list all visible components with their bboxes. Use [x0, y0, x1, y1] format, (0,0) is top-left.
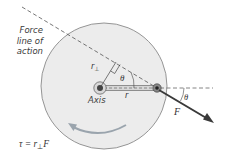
r-perp-subscript: ⊥: [94, 65, 99, 72]
theta-outer-label: θ: [184, 93, 188, 102]
axis-label: Axis: [88, 96, 106, 105]
r-perp-label: r⊥: [91, 63, 100, 72]
lever-rod: [100, 86, 157, 91]
caption-line-3: action: [6, 46, 43, 57]
caption-line-2: line of: [6, 36, 43, 47]
formula-lhs: τ = r: [19, 139, 37, 149]
force-label: F: [174, 107, 180, 117]
caption-line-1: Force: [6, 25, 43, 36]
force-arrow-head: [203, 113, 214, 123]
torque-formula: τ = r⊥F: [19, 140, 49, 151]
force-line-caption: Force line of action: [6, 25, 43, 57]
r-label: r: [125, 92, 128, 100]
formula-rhs: F: [43, 139, 49, 149]
theta-inner-label: θ: [120, 74, 124, 83]
torque-diagram: Force line of action r⊥ θ r Axis θ F τ =…: [0, 0, 225, 164]
pivot-inner: [155, 86, 159, 90]
